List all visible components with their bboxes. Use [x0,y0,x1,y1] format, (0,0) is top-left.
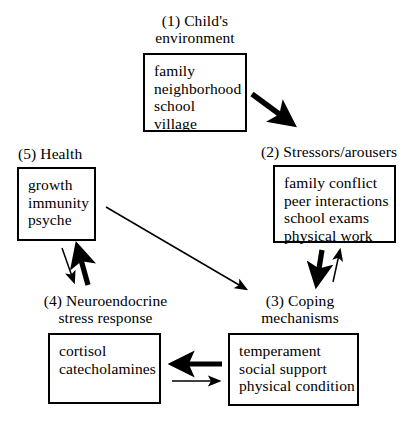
arrow-health-to-neuroendocrine [62,248,74,282]
node-5-box: growth immunity psyche [17,167,96,241]
diagram-canvas: (1) Child's environment family neighborh… [0,0,414,423]
arrow-neuroendocrine-to-health [78,249,88,285]
node-5-label: (5) Health [18,145,118,162]
node-3-box: temperament social support physical cond… [228,333,359,406]
arrow-health-to-coping [106,207,246,289]
node-3-label: (3) Coping mechanisms [240,292,360,326]
node-1-label: (1) Child's environment [143,12,247,46]
arrow-coping-to-stressors [333,250,340,282]
arrow-stressors-to-coping [317,250,322,281]
arrow-child-environment-to-stressors [252,94,290,122]
node-4-box: cortisol catecholamines [48,333,161,404]
node-2-label: (2) Stressors/arousers [261,143,413,160]
node-2-box: family conflict peer interactions school… [273,165,396,243]
node-4-label: (4) Neuroendocrine stress response [28,292,183,326]
node-1-box: family neighborhood school village [143,53,247,132]
